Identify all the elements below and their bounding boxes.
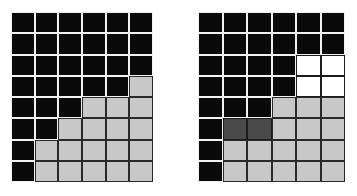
grid-cell: [129, 76, 153, 97]
grid-cell: [35, 161, 59, 182]
grid-cell: [35, 140, 59, 161]
grid-cell: [35, 76, 59, 97]
grid-cell: [35, 33, 59, 54]
grid-cell: [272, 118, 297, 139]
grid-cell: [11, 55, 35, 76]
grid-cell: [106, 97, 130, 118]
grid-cell: [296, 161, 321, 182]
left-grid-panel: [11, 12, 153, 182]
grid-cell: [106, 118, 130, 139]
grid-cell: [198, 118, 223, 139]
grid-cell: [247, 76, 272, 97]
grid-cell: [247, 97, 272, 118]
grid-cell: [198, 161, 223, 182]
grid-cell: [247, 118, 272, 139]
grid-cell: [198, 33, 223, 54]
grid-cell: [129, 140, 153, 161]
grid-cell: [223, 12, 248, 33]
grid-cell: [247, 140, 272, 161]
grid-cell: [35, 97, 59, 118]
grid-cell: [58, 55, 82, 76]
grid-cell: [58, 12, 82, 33]
grid-cell: [296, 33, 321, 54]
grid-cell: [272, 33, 297, 54]
grid-cell: [296, 55, 321, 76]
grid-cell: [272, 161, 297, 182]
grid-cell: [198, 55, 223, 76]
grid-cell: [296, 12, 321, 33]
grid-cell: [58, 97, 82, 118]
grid-cell: [321, 161, 346, 182]
grid-cell: [272, 76, 297, 97]
grid-cell: [223, 76, 248, 97]
grid-cell: [11, 76, 35, 97]
grid-cell: [11, 33, 35, 54]
grid-cell: [11, 12, 35, 33]
grid-cell: [58, 33, 82, 54]
grid-cell: [11, 140, 35, 161]
grid-cell: [106, 33, 130, 54]
grid-cell: [106, 12, 130, 33]
grid-cell: [223, 55, 248, 76]
grid-cell: [198, 76, 223, 97]
grid-cell: [296, 97, 321, 118]
grid-cell: [58, 161, 82, 182]
grid-cell: [11, 161, 35, 182]
grid-cell: [82, 33, 106, 54]
grid-cell: [82, 12, 106, 33]
grid-cell: [35, 12, 59, 33]
grid-cell: [82, 118, 106, 139]
grid-cell: [223, 33, 248, 54]
grid-cell: [198, 140, 223, 161]
grid-cell: [82, 140, 106, 161]
grid-cell: [321, 33, 346, 54]
grid-cell: [35, 55, 59, 76]
grid-cell: [198, 12, 223, 33]
right-grid-panel: [198, 12, 345, 182]
grid-cell: [106, 161, 130, 182]
grid-cell: [223, 97, 248, 118]
grid-cell: [223, 118, 248, 139]
grid-cell: [198, 97, 223, 118]
grid-cell: [129, 33, 153, 54]
grid-cell: [129, 55, 153, 76]
grid-cell: [129, 97, 153, 118]
grid-cell: [223, 140, 248, 161]
grid-cell: [106, 76, 130, 97]
grid-cell: [247, 12, 272, 33]
grid-cell: [58, 76, 82, 97]
grid-cell: [223, 161, 248, 182]
grid-cell: [296, 76, 321, 97]
grid-cell: [321, 97, 346, 118]
grid-cell: [11, 118, 35, 139]
grid-cell: [247, 161, 272, 182]
grid-cell: [272, 140, 297, 161]
grid-cell: [129, 161, 153, 182]
grid-cell: [82, 55, 106, 76]
grid-cell: [106, 55, 130, 76]
grid-cell: [247, 55, 272, 76]
grid-cell: [11, 97, 35, 118]
figure-stage: [0, 0, 357, 196]
grid-cell: [321, 12, 346, 33]
grid-cell: [272, 12, 297, 33]
grid-cell: [58, 140, 82, 161]
grid-cell: [35, 118, 59, 139]
grid-cell: [247, 33, 272, 54]
grid-cell: [129, 118, 153, 139]
grid-cell: [296, 118, 321, 139]
grid-cell: [321, 140, 346, 161]
grid-cell: [82, 76, 106, 97]
grid-cell: [82, 161, 106, 182]
grid-cell: [272, 55, 297, 76]
grid-cell: [321, 55, 346, 76]
grid-cell: [129, 12, 153, 33]
grid-cell: [296, 140, 321, 161]
grid-cell: [321, 118, 346, 139]
grid-cell: [321, 76, 346, 97]
grid-cell: [272, 97, 297, 118]
grid-cell: [82, 97, 106, 118]
grid-cell: [106, 140, 130, 161]
grid-cell: [58, 118, 82, 139]
